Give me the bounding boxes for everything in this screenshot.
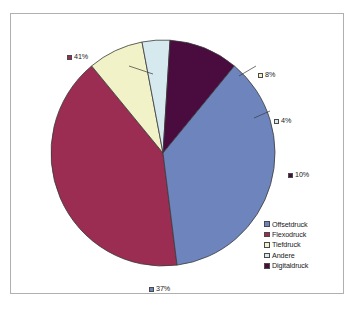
legend-item-digitaldruck[interactable]: Digitaldruck	[264, 261, 342, 271]
data-label-value-offsetdruck: 37%	[156, 284, 170, 293]
legend-item-tiefdruck[interactable]: Tiefdruck	[264, 240, 342, 250]
pie-chart-plot-area: 41% 8% 4% 10% 37% OffsetdruckFlexodruckT…	[11, 14, 343, 293]
data-label-flexodruck: 41%	[67, 52, 88, 61]
data-label-value-andere: 4%	[281, 116, 291, 125]
data-label-value-flexodruck: 41%	[74, 52, 88, 61]
data-label-swatch-tiefdruck	[258, 73, 263, 78]
chart-legend: OffsetdruckFlexodruckTiefdruckAndereDigi…	[264, 219, 342, 271]
legend-label: Tiefdruck	[272, 240, 300, 249]
legend-label: Offsetdruck	[272, 220, 308, 229]
legend-item-andere[interactable]: Andere	[264, 250, 342, 260]
legend-item-offsetdruck[interactable]: Offsetdruck	[264, 219, 342, 229]
legend-item-flexodruck[interactable]: Flexodruck	[264, 229, 342, 239]
leader-line-tiefdruck	[239, 66, 256, 76]
data-label-offsetdruck: 37%	[149, 284, 170, 293]
pie-slice-group	[51, 40, 275, 266]
legend-swatch-andere	[264, 253, 270, 259]
data-label-value-tiefdruck: 8%	[265, 70, 275, 79]
legend-label: Digitaldruck	[272, 261, 308, 270]
data-label-swatch-flexodruck	[67, 55, 72, 60]
legend-label: Flexodruck	[272, 230, 306, 239]
data-label-swatch-andere	[274, 119, 279, 124]
data-label-swatch-offsetdruck	[149, 287, 154, 292]
legend-swatch-flexodruck	[264, 232, 270, 238]
data-label-andere: 4%	[274, 116, 291, 125]
legend-swatch-offsetdruck	[264, 221, 270, 227]
legend-label: Andere	[272, 251, 295, 260]
data-label-value-digitaldruck: 10%	[295, 170, 309, 179]
legend-swatch-tiefdruck	[264, 242, 270, 248]
legend-swatch-digitaldruck	[264, 263, 270, 269]
data-label-swatch-digitaldruck	[288, 173, 293, 178]
data-label-tiefdruck: 8%	[258, 70, 275, 79]
data-label-digitaldruck: 10%	[288, 170, 309, 179]
chart-frame: 41% 8% 4% 10% 37% OffsetdruckFlexodruckT…	[10, 13, 344, 294]
